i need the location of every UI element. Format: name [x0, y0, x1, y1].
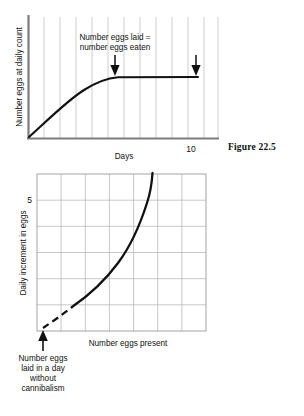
figure-caption-22-5: Figure 22.5 [228, 142, 276, 152]
figure-22-6: 5 Number eggs present Daily increment in… [0, 165, 304, 416]
increment-curve-solid [72, 173, 153, 307]
x-axis-title: Number eggs present [89, 339, 168, 348]
x-tick-label-10: 10 [186, 144, 196, 154]
egg-count-curve [29, 77, 198, 137]
increment-curve-dashed [43, 307, 72, 328]
annotation-line-1: Number eggs laid = [79, 33, 150, 42]
x-axis-title: Days [115, 152, 134, 161]
callout-arrow-up-icon [38, 330, 48, 351]
annotation-arrow-left-icon [110, 55, 119, 76]
figure-22-5-chart: Number eggs laid = number eggs eaten 10 … [0, 0, 304, 165]
callout-line-1: Number eggs [18, 354, 67, 363]
callout-line-2: laid in a day [21, 364, 66, 373]
y-tick-label-5: 5 [27, 195, 32, 205]
gridlines-horizontal [37, 200, 206, 305]
figure-22-5: Number eggs laid = number eggs eaten 10 … [0, 0, 304, 165]
callout-line-3: without [29, 374, 57, 383]
annotation-arrow-right-icon [191, 55, 200, 76]
callout-line-4: cannibalism [21, 384, 64, 393]
y-axis-title: Daily increment in eggs [19, 210, 28, 295]
annotation-line-2: number eggs eaten [80, 43, 151, 52]
y-axis-title: Number eggs at daily count [15, 26, 24, 126]
figure-22-6-chart: 5 Number eggs present Daily increment in… [0, 165, 304, 416]
